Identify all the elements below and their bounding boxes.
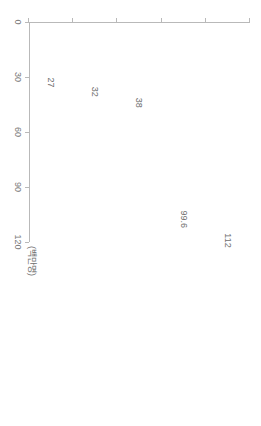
category-axis-tick xyxy=(249,18,250,22)
bar-value-label: 99.6 xyxy=(179,211,189,229)
value-axis-tick-label: 120 xyxy=(13,227,23,257)
value-axis-tick xyxy=(25,242,29,243)
value-axis-line xyxy=(29,22,30,242)
bar-value-label: 27 xyxy=(46,78,56,88)
value-axis-tick-label: 0 xyxy=(13,7,23,37)
value-axis-tick xyxy=(25,77,29,78)
category-axis-tick xyxy=(116,18,117,22)
bar: 112 xyxy=(218,23,237,228)
bar-value-label: 38 xyxy=(135,98,145,108)
category-axis-tick xyxy=(72,18,73,22)
value-axis-tick-label: 30 xyxy=(13,62,23,92)
value-axis-tick xyxy=(25,132,29,133)
category-axis-tick xyxy=(28,18,29,22)
value-axis-tick-label: 60 xyxy=(13,117,23,147)
bar: 38 xyxy=(130,23,149,93)
category-axis-tick xyxy=(161,18,162,22)
bar-value-label: 112 xyxy=(223,233,233,247)
category-axis-tick xyxy=(205,18,206,22)
bar: 99.6 xyxy=(174,23,193,206)
bar: 32 xyxy=(86,23,105,82)
value-axis-tick xyxy=(25,22,29,23)
unit-caption: (백만명) xyxy=(26,246,39,276)
bar-value-label: 32 xyxy=(90,87,100,97)
bar: 27 xyxy=(42,23,61,73)
bar-chart-figure: 0306090120 11299.6383227 슈퍼볼 결승(2017)월드컵… xyxy=(0,0,261,426)
value-axis-tick-label: 90 xyxy=(13,172,23,202)
plot-area: 0306090120 11299.6383227 슈퍼볼 결승(2017)월드컵… xyxy=(0,0,261,426)
value-axis-tick xyxy=(25,187,29,188)
